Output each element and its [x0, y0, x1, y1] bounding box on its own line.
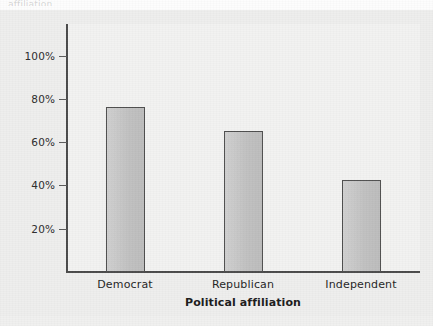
y-axis-tick-label: 100% [7, 50, 55, 62]
y-axis-tick-label: 60% [7, 136, 55, 148]
y-axis-tick-label-wrap: 40% [0, 179, 55, 191]
y-axis-tick [59, 56, 67, 57]
bar-sheen [107, 108, 144, 271]
bar-sheen [343, 181, 380, 271]
y-axis-tick [59, 185, 67, 186]
y-axis-tick-label-wrap: 100% [0, 50, 55, 62]
y-axis-tick-label: 80% [7, 93, 55, 105]
y-axis-tick-label-wrap: 80% [0, 93, 55, 105]
bar-republican [224, 131, 263, 272]
bar-sheen [225, 132, 262, 271]
y-axis-tick-label: 40% [7, 179, 55, 191]
clipped-caption-remnant: affiliation [8, 0, 308, 6]
x-axis-tick-label: Republican [183, 278, 303, 291]
y-axis-tick [59, 142, 67, 143]
y-axis-tick-label-wrap: 20% [0, 223, 55, 235]
y-axis-tick-label: 20% [7, 223, 55, 235]
x-axis-title: Political affiliation [66, 296, 420, 309]
x-axis-tick-label: Independent [301, 278, 421, 291]
bar-democrat [106, 107, 145, 272]
chart-figure: affiliation 20%40%60%80%100% DemocratRep… [0, 0, 433, 326]
y-axis-tick [59, 229, 67, 230]
bar-independent [342, 180, 381, 272]
x-axis-tick-label: Democrat [65, 278, 185, 291]
y-axis-tick-label-wrap: 60% [0, 136, 55, 148]
y-axis-tick [59, 99, 67, 100]
y-axis-line [66, 24, 68, 273]
